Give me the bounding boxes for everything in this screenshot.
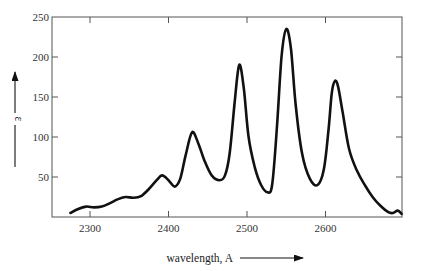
x-axis-title: wavelength, A	[167, 252, 234, 265]
absorption-spectrum-chart: 2300240025002600 50100150200250 waveleng…	[0, 0, 425, 271]
y-tick-label: 250	[33, 11, 50, 23]
y-tick-label: 50	[38, 171, 50, 183]
x-tick-label: 2300	[79, 222, 102, 234]
y-tick-label: 100	[33, 131, 50, 143]
spectrum-curve	[70, 29, 401, 214]
y-tick-label: 200	[33, 51, 50, 63]
x-tick-label: 2400	[158, 222, 181, 234]
y-axis-ticks: 50100150200250	[33, 11, 403, 183]
y-axis-title: ε	[13, 117, 25, 122]
x-tick-label: 2600	[315, 222, 338, 234]
x-tick-label: 2500	[236, 222, 259, 234]
plot-frame	[52, 17, 402, 217]
y-tick-label: 150	[33, 91, 50, 103]
